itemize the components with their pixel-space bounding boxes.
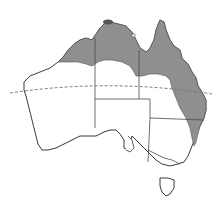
map-container: Australia distribution map Tropic of Cap… — [0, 0, 218, 215]
tasmania-outline — [160, 178, 174, 196]
australia-map — [0, 0, 218, 215]
melville-island — [103, 20, 113, 25]
groote-eylandt — [132, 34, 135, 37]
